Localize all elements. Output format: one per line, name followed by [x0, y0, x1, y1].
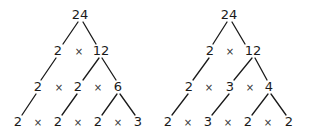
- factor-node: 2: [185, 80, 193, 94]
- factor-node: 6: [114, 80, 122, 94]
- multiply-sign: ×: [114, 118, 122, 128]
- factor-node: 2: [206, 44, 214, 58]
- edge: [120, 94, 135, 115]
- tree-root: 24: [221, 8, 238, 22]
- edge: [102, 58, 116, 80]
- multiply-sign: ×: [246, 83, 254, 93]
- edge: [83, 58, 99, 80]
- edge: [234, 58, 252, 80]
- prime-factor: 2: [285, 115, 293, 129]
- multiply-sign: ×: [224, 118, 232, 128]
- multiply-sign: ×: [184, 118, 192, 128]
- factor-node: 12: [245, 44, 262, 58]
- edge: [252, 94, 268, 115]
- factor-node: 2: [34, 80, 42, 94]
- edge: [62, 94, 77, 115]
- prime-factor: 2: [164, 115, 172, 129]
- edge: [41, 58, 56, 80]
- edge: [213, 22, 227, 44]
- multiply-sign: ×: [264, 118, 272, 128]
- prime-factor: 3: [134, 115, 142, 129]
- multiply-sign: ×: [94, 83, 102, 93]
- multiply-sign: ×: [205, 83, 213, 93]
- multiply-sign: ×: [226, 47, 234, 57]
- prime-factor: 3: [204, 115, 212, 129]
- multiply-sign: ×: [55, 83, 63, 93]
- edge: [172, 94, 188, 115]
- edge: [193, 58, 209, 80]
- edge: [63, 22, 78, 44]
- multiply-sign: ×: [34, 118, 42, 128]
- prime-factor: 2: [54, 115, 62, 129]
- tree-root: 24: [72, 8, 89, 22]
- multiply-sign: ×: [74, 118, 82, 128]
- edge: [83, 22, 96, 44]
- factor-node: 2: [74, 80, 82, 94]
- edge: [271, 94, 286, 115]
- edge: [22, 94, 36, 115]
- factor-tree-diagram: 24 2 × 12 2 × 2 × 6 2 × 2 × 2 × 3 24 2 ×…: [0, 0, 311, 134]
- factor-node: 2: [54, 44, 62, 58]
- factor-node: 4: [265, 80, 273, 94]
- edge: [212, 94, 229, 115]
- multiply-sign: ×: [75, 47, 83, 57]
- edge: [255, 58, 267, 80]
- factor-node: 3: [226, 80, 234, 94]
- prime-factor: 2: [94, 115, 102, 129]
- edge: [102, 94, 117, 115]
- prime-factor: 2: [244, 115, 252, 129]
- tree-edges: [0, 0, 311, 134]
- prime-factor: 2: [14, 115, 22, 129]
- factor-node: 12: [93, 44, 110, 58]
- edge: [232, 22, 245, 44]
